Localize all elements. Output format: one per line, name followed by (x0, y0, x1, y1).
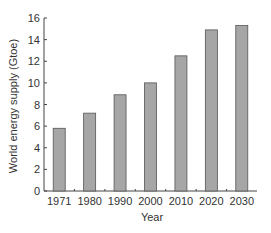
y-axis: 0246810121416 (28, 12, 47, 197)
x-tick-label: 2010 (169, 195, 193, 207)
x-tick-label: 2000 (138, 195, 162, 207)
bars (53, 26, 248, 191)
bar-1980 (84, 113, 96, 191)
y-tick-label: 10 (28, 77, 40, 89)
bar-1971 (53, 128, 65, 191)
bar-2020 (205, 30, 217, 191)
bar-2000 (145, 83, 157, 191)
y-axis-title: World energy supply (Gtoe) (7, 39, 19, 173)
bar-2010 (175, 56, 187, 191)
y-tick-label: 6 (34, 120, 40, 132)
y-tick-label: 14 (28, 34, 40, 46)
x-axis-title: Year (141, 211, 164, 223)
y-tick-label: 16 (28, 12, 40, 24)
bar-1990 (114, 95, 126, 191)
y-tick-label: 8 (34, 99, 40, 111)
x-tick-label: 1971 (47, 195, 71, 207)
x-tick-label: 2020 (199, 195, 223, 207)
x-axis: 1971198019902000201020202030 (44, 189, 257, 207)
y-tick-label: 2 (34, 163, 40, 175)
bar-chart: 0246810121416 19711980199020002010202020… (0, 0, 271, 233)
x-tick-label: 1980 (77, 195, 101, 207)
bar-2030 (236, 26, 248, 191)
y-tick-label: 4 (34, 142, 40, 154)
x-tick-label: 2030 (230, 195, 254, 207)
y-tick-label: 0 (34, 185, 40, 197)
y-tick-label: 12 (28, 55, 40, 67)
x-tick-label: 1990 (108, 195, 132, 207)
